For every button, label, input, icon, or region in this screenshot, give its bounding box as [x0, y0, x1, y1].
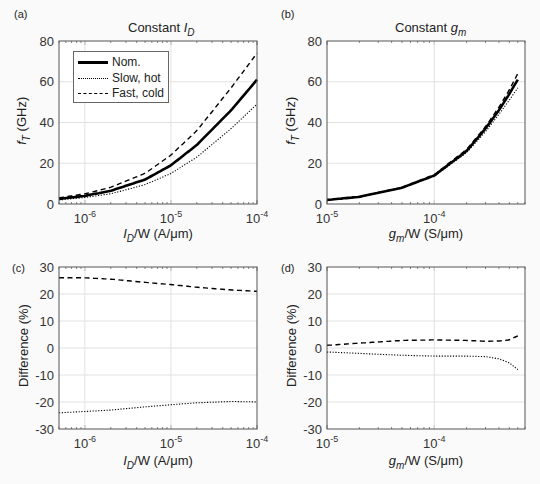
title-a: Constant ID: [128, 20, 195, 38]
legend-swatch-nom: [78, 61, 108, 64]
legend-swatch-fast: [78, 93, 108, 94]
legend-item-nom: Nom.: [78, 55, 141, 69]
xlabel-c: ID/W (A/μm): [59, 453, 257, 471]
xlabel-b: gm/W (S/μm): [327, 226, 525, 244]
y-tick-label: -10: [35, 368, 54, 383]
panel-label-b: (b): [281, 8, 294, 20]
x-tick-label: 10-4: [423, 209, 445, 226]
x-tick-label: 10-6: [74, 434, 96, 451]
legend-swatch-slow: [78, 78, 108, 79]
y-tick-label: 40: [308, 115, 322, 130]
x-tick-label: 10-4: [246, 434, 268, 451]
ylabel-b: fT (GHz): [283, 76, 301, 166]
y-tick-label: 80: [40, 34, 54, 49]
ylabel-a: fT (GHz): [14, 76, 32, 166]
ylabel-c: Difference (%): [16, 291, 31, 401]
ylabel-d: Difference (%): [284, 291, 299, 401]
x-tick-label: 10-5: [316, 434, 338, 451]
y-tick-label: 20: [308, 156, 322, 171]
legend-item-fast: Fast, cold: [78, 86, 164, 100]
xlabel-d: gm/W (S/μm): [327, 453, 525, 471]
x-tick-label: 10-5: [316, 209, 338, 226]
y-tick-label: 10: [308, 314, 322, 329]
plot-b: 02040608010-510-4: [308, 34, 525, 227]
y-tick-label: -30: [35, 422, 54, 437]
legend: Nom. Slow, hot Fast, cold: [73, 51, 169, 103]
y-tick-label: 0: [315, 197, 322, 212]
y-tick-label: 60: [40, 74, 54, 89]
panel-label-c: (c): [12, 262, 25, 274]
y-tick-label: 0: [47, 197, 54, 212]
xlabel-a: ID/W (A/μm): [59, 226, 257, 244]
y-tick-label: 40: [40, 115, 54, 130]
x-tick-label: 10-4: [246, 209, 268, 226]
title-b: Constant gm: [395, 20, 466, 38]
y-tick-label: 20: [40, 287, 54, 302]
y-tick-label: 0: [47, 341, 54, 356]
y-tick-label: 80: [308, 34, 322, 49]
plot-d: -30-20-10010203010-510-4: [303, 260, 525, 452]
y-tick-label: 30: [308, 260, 322, 275]
y-tick-label: 30: [40, 260, 54, 275]
panel-label-d: (d): [281, 262, 294, 274]
y-tick-label: 20: [40, 156, 54, 171]
y-tick-label: 60: [308, 74, 322, 89]
y-tick-label: -10: [303, 368, 322, 383]
legend-item-slow: Slow, hot: [78, 71, 161, 85]
y-tick-label: 10: [40, 314, 54, 329]
plot-c: -30-20-10010203010-610-510-4: [35, 260, 268, 452]
y-tick-label: -30: [303, 422, 322, 437]
x-tick-label: 10-5: [160, 209, 182, 226]
y-tick-label: -20: [35, 395, 54, 410]
x-tick-label: 10-4: [423, 434, 445, 451]
y-tick-label: 20: [308, 287, 322, 302]
y-tick-label: 0: [315, 341, 322, 356]
y-tick-label: -20: [303, 395, 322, 410]
x-tick-label: 10-6: [74, 209, 96, 226]
panel-label-a: (a): [14, 8, 27, 20]
x-tick-label: 10-5: [160, 434, 182, 451]
